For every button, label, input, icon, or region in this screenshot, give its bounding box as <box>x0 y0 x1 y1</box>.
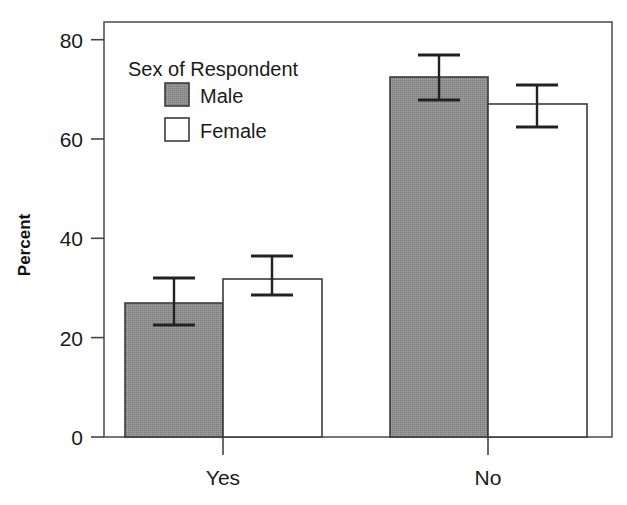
y-axis-tick-labels: 0 20 40 60 80 <box>60 29 83 449</box>
legend-label-female: Female <box>200 120 267 142</box>
legend-swatch-male <box>165 83 189 106</box>
legend-title: Sex of Respondent <box>128 58 299 80</box>
legend-entry-male: Male <box>165 83 243 107</box>
y-tick-label-80: 80 <box>60 29 83 52</box>
x-axis-tick-labels: Yes No <box>206 466 502 489</box>
y-tick-label-0: 0 <box>71 426 83 449</box>
x-axis-ticks <box>223 437 488 455</box>
y-tick-label-60: 60 <box>60 128 83 151</box>
x-tick-label-yes: Yes <box>206 466 240 489</box>
bar-female-no <box>488 104 587 437</box>
bar-female-yes <box>223 279 322 437</box>
y-tick-label-20: 20 <box>60 327 83 350</box>
chart-root: 0 20 40 60 80 Percent Yes No <box>0 0 627 505</box>
legend: Sex of Respondent Male Female <box>128 58 299 142</box>
bar-chart-svg: 0 20 40 60 80 Percent Yes No <box>0 0 627 505</box>
x-tick-label-no: No <box>475 466 502 489</box>
bar-male-no <box>390 77 488 437</box>
y-tick-label-40: 40 <box>60 227 83 250</box>
legend-entry-female: Female <box>165 118 267 142</box>
legend-swatch-female <box>165 118 189 141</box>
y-axis-ticks <box>91 40 104 437</box>
legend-label-male: Male <box>200 85 243 107</box>
y-axis-title: Percent <box>15 213 34 276</box>
